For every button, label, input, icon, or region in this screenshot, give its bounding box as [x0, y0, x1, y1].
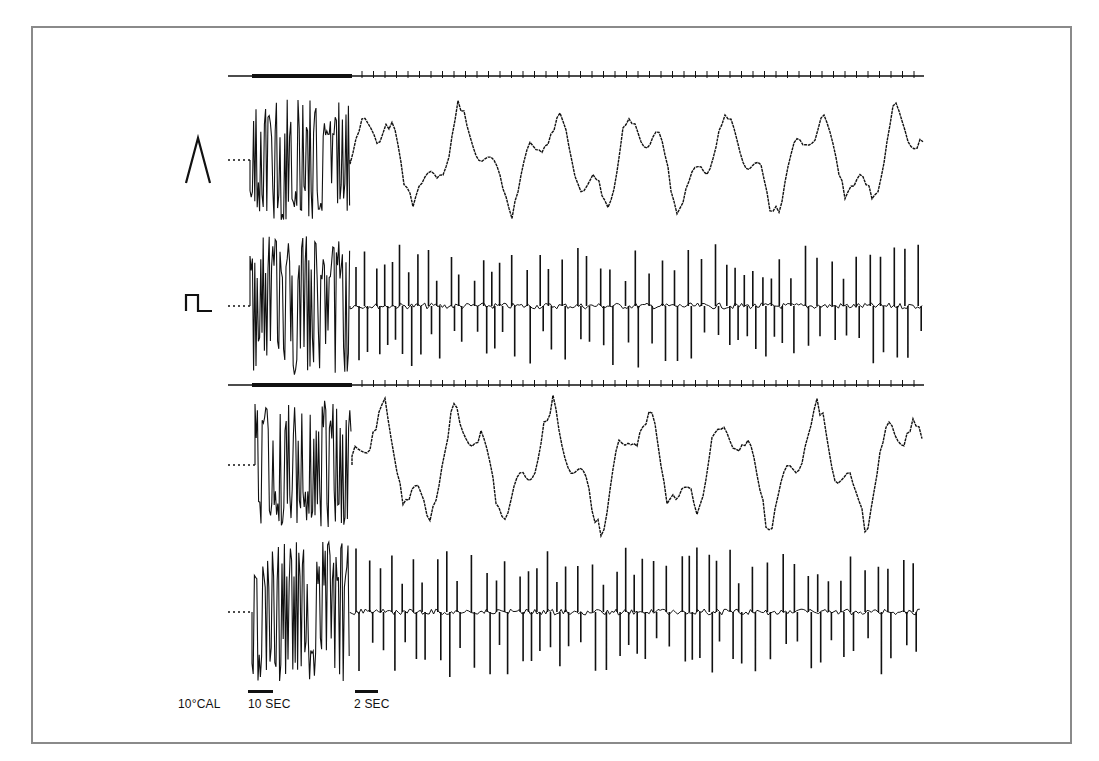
trace-1-triangle-stimulus-burst: [250, 100, 350, 220]
trace-1-triangle-stimulus-waveform: [350, 101, 923, 219]
triangle-wave-icon: [186, 138, 210, 183]
recording-traces: [0, 0, 1099, 761]
scale-bar-2-sec: [355, 690, 378, 693]
trace-2-square-stimulus-burst: [250, 236, 350, 374]
trace-3-slow-burst: [255, 401, 351, 527]
upper-time-marker-ticks: [362, 71, 914, 78]
calibration-label: 10°CAL: [178, 697, 221, 711]
scale-label-2-sec: 2 SEC: [354, 697, 390, 711]
scale-label-10-sec: 10 SEC: [248, 697, 291, 711]
scale-bar-10-sec: [248, 690, 273, 693]
trace-4-spiky-burst: [252, 542, 349, 681]
square-wave-icon: [186, 295, 212, 311]
lower-time-marker-ticks: [362, 380, 914, 387]
trace-4-spiky-spikes: [356, 548, 916, 677]
trace-3-slow-waveform: [352, 395, 922, 536]
